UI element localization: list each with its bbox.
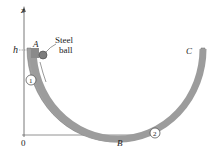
- steel-ball: [39, 51, 47, 59]
- steel-ball-label-line1: Steel: [55, 35, 73, 45]
- ball-leader-line: [46, 44, 56, 52]
- height-label: h: [13, 44, 18, 55]
- track: [27, 48, 205, 142]
- origin-label: 0: [21, 138, 26, 148]
- marker-1-label: 1: [29, 77, 33, 85]
- point-a-label: A: [32, 39, 39, 49]
- start-block: [31, 48, 39, 58]
- half-pipe-diagram: z 0 h A B C Steel ball 1 2: [0, 0, 208, 155]
- point-b-label: B: [117, 138, 123, 148]
- steel-ball-label-line2: ball: [59, 45, 73, 55]
- point-c-label: C: [186, 46, 193, 56]
- z-axis-label: z: [20, 5, 25, 15]
- marker-2-label: 2: [153, 130, 157, 138]
- track-band: [33, 49, 203, 139]
